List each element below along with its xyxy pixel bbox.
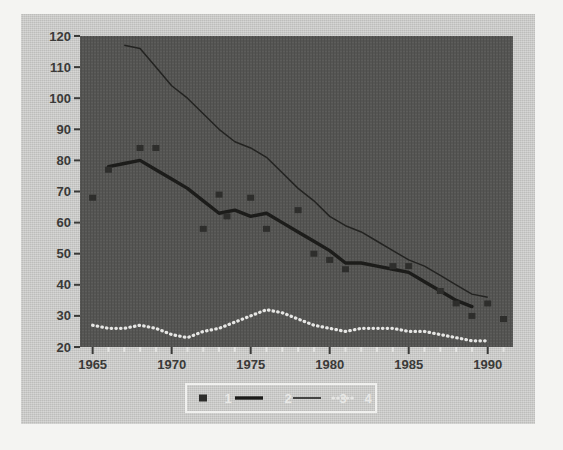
data-point-marker [310, 251, 317, 257]
y-tick-label: 120 [49, 29, 71, 44]
y-axis: 2030405060708090100110120 [49, 29, 80, 355]
plot-area [80, 36, 513, 347]
data-point-marker [152, 145, 159, 151]
chart-page: 2030405060708090100110120 19651970197519… [0, 0, 563, 450]
y-tick-label: 110 [50, 60, 71, 75]
y-tick-label: 60 [57, 215, 71, 230]
data-point-marker [500, 316, 507, 322]
legend-item[interactable]: 1 [199, 391, 232, 406]
data-point-marker [105, 167, 112, 173]
y-tick-label: 100 [49, 91, 71, 106]
data-point-marker [137, 145, 144, 151]
data-point-marker [326, 257, 333, 263]
data-point-marker [89, 195, 96, 201]
x-tick-label: 1985 [394, 357, 423, 372]
y-tick-label: 40 [57, 277, 71, 292]
legend-label: 4 [364, 391, 372, 406]
y-tick-label: 80 [57, 153, 71, 168]
y-tick-label: 90 [57, 122, 71, 137]
x-tick-label: 1980 [315, 357, 344, 372]
data-point-marker [405, 263, 412, 269]
chart-legend: 1234 [186, 384, 376, 412]
y-tick-label: 30 [57, 308, 71, 323]
x-tick-label: 1970 [157, 357, 186, 372]
legend-square-marker-icon [199, 395, 207, 402]
y-tick-label: 70 [57, 184, 71, 199]
x-tick-label: 1990 [473, 357, 502, 372]
data-point-marker [484, 300, 491, 306]
x-tick-label: 1965 [78, 357, 107, 372]
data-point-marker [247, 195, 254, 201]
data-point-marker [216, 192, 223, 198]
data-point-marker [453, 300, 460, 306]
y-tick-label: 50 [57, 246, 71, 261]
x-axis: 196519701975198019851990 [78, 347, 503, 372]
x-tick-label: 1975 [236, 357, 265, 372]
data-point-marker [437, 288, 444, 294]
legend-label: 1 [224, 391, 231, 406]
data-point-marker [223, 213, 230, 219]
data-point-marker [342, 266, 349, 272]
data-point-marker [263, 226, 270, 232]
line-chart: 2030405060708090100110120 19651970197519… [0, 0, 563, 450]
chart-figure: 2030405060708090100110120 19651970197519… [0, 0, 563, 450]
data-point-marker [468, 313, 475, 319]
y-tick-label: 20 [57, 340, 71, 355]
legend-label: 2 [284, 391, 291, 406]
legend-item[interactable]: 2 [235, 391, 292, 406]
data-point-marker [200, 226, 207, 232]
data-point-marker [389, 263, 396, 269]
data-point-marker [295, 207, 302, 213]
legend-items: 1234 [199, 391, 372, 406]
